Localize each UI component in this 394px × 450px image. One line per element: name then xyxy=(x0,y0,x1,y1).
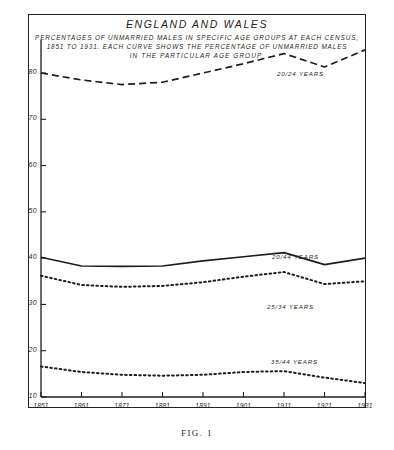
axes-group xyxy=(41,40,365,397)
series-label-25-34-years: 25/34 YEARS xyxy=(267,303,314,310)
y-tick-label-30: 30 xyxy=(15,299,37,306)
x-tick-label-1861: 1861 xyxy=(65,402,99,409)
series-label-20-44-years: 20/44 YEARS xyxy=(272,253,319,260)
y-tick-label-50: 50 xyxy=(15,207,37,214)
y-tick-label-60: 60 xyxy=(15,161,37,168)
x-tick-label-1891: 1891 xyxy=(186,402,220,409)
x-tick-label-1911: 1911 xyxy=(267,402,301,409)
series-line-35-44-years xyxy=(41,366,365,383)
x-tick-label-1851: 1851 xyxy=(24,402,58,409)
x-tick-label-1871: 1871 xyxy=(105,402,139,409)
figure-caption: FIG. 1 xyxy=(0,428,394,438)
y-tick-label-20: 20 xyxy=(15,346,37,353)
plot-canvas xyxy=(0,0,394,450)
series-label-20-24-years: 20/24 YEARS xyxy=(277,70,324,77)
series-line-25-34-years xyxy=(41,272,365,287)
y-tick-label-40: 40 xyxy=(15,253,37,260)
x-tick-label-1881: 1881 xyxy=(146,402,180,409)
x-tick-label-1921: 1921 xyxy=(308,402,342,409)
series-label-35-44-years: 35/44 YEARS xyxy=(271,358,318,365)
y-tick-label-80: 80 xyxy=(15,68,37,75)
series-group xyxy=(41,50,365,383)
y-tick-label-70: 70 xyxy=(15,114,37,121)
y-tick-label-10: 10 xyxy=(15,392,37,399)
x-tick-label-1931: 1931 xyxy=(348,402,382,409)
series-line-20-24-years xyxy=(41,50,365,85)
x-tick-label-1901: 1901 xyxy=(227,402,261,409)
figure-england-and-wales: ENGLAND AND WALES PERCENTAGES OF UNMARRI… xyxy=(0,0,394,450)
